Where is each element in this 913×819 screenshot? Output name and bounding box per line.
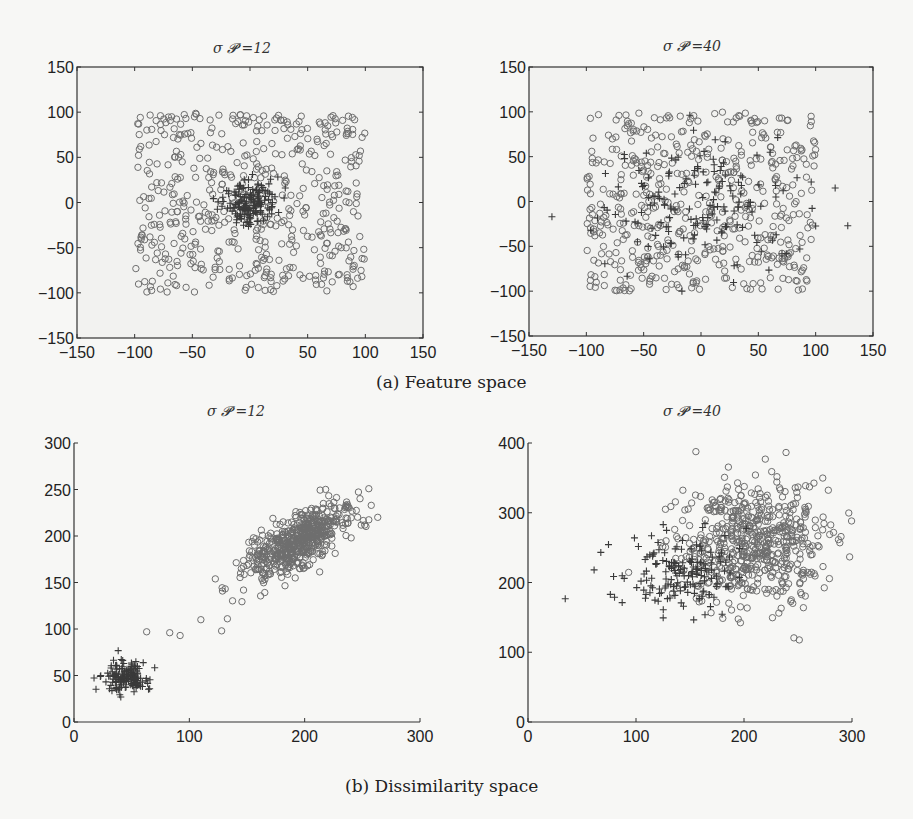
caption-feature-space: (a) Feature space	[376, 372, 527, 392]
x-tick-label: 50	[299, 344, 317, 361]
y-tick-label: 200	[498, 575, 525, 592]
y-tick-label: 100	[47, 104, 74, 121]
y-tick-label: 0	[62, 714, 71, 731]
x-tick-label: 150	[860, 342, 887, 359]
y-tick-label: 250	[44, 482, 71, 499]
y-tick-label: −50	[499, 238, 526, 255]
axis-ticks: 0100200300050100150200250300	[44, 435, 433, 745]
y-tick-label: 0	[65, 195, 74, 212]
points	[91, 486, 381, 701]
y-tick-label: −50	[47, 240, 74, 257]
y-tick-label: −150	[490, 328, 526, 345]
panel-dissimilarity-space-sigma-40: σ 𝓟 =40 01002003000100200300400	[460, 395, 913, 765]
x-tick-label: 200	[731, 728, 758, 745]
x-tick-label: 100	[623, 728, 650, 745]
y-tick-label: 0	[516, 714, 525, 731]
panel-dissimilarity-space-sigma-12: σ 𝓟 =12 0100200300050100150200250300	[0, 395, 460, 765]
x-tick-label: 300	[839, 728, 866, 745]
panel-feature-space-sigma-40: σ 𝓟 =40 −150−100−50050100150−150−100−500…	[460, 0, 913, 370]
x-tick-label: 100	[176, 728, 203, 745]
caption-dissimilarity-space: (b) Dissimilarity space	[345, 776, 538, 796]
x-tick-label: 300	[407, 728, 434, 745]
y-tick-label: 200	[44, 528, 71, 545]
y-tick-label: −100	[490, 283, 526, 300]
panel-feature-space-sigma-12: σ 𝓟 =12 −150−100−50050100150−150−100−500…	[0, 0, 460, 370]
y-tick-label: 50	[508, 149, 526, 166]
x-tick-label: 50	[749, 342, 767, 359]
y-tick-label: 150	[44, 575, 71, 592]
y-tick-label: 300	[44, 435, 71, 452]
x-tick-label: −100	[117, 344, 153, 361]
scatter-plot: 01002003000100200300400	[460, 395, 913, 765]
x-tick-label: 150	[410, 344, 437, 361]
y-tick-label: −100	[38, 285, 74, 302]
y-tick-label: 50	[56, 149, 74, 166]
y-tick-label: 100	[44, 621, 71, 638]
axis-ticks: 01002003000100200300400	[498, 435, 865, 745]
y-tick-label: 100	[499, 104, 526, 121]
x-tick-label: −100	[568, 342, 604, 359]
y-tick-label: −150	[38, 330, 74, 347]
scatter-plot: −150−100−50050100150−150−100−50050100150	[460, 0, 913, 370]
x-tick-label: 0	[246, 344, 255, 361]
scatter-plot: 0100200300050100150200250300	[0, 395, 460, 765]
x-tick-label: 100	[352, 344, 379, 361]
x-tick-label: −50	[630, 342, 657, 359]
x-tick-label: −50	[179, 344, 206, 361]
y-tick-label: 150	[499, 59, 526, 76]
y-tick-label: 0	[517, 194, 526, 211]
y-tick-label: 150	[47, 59, 74, 76]
y-tick-label: 50	[53, 668, 71, 685]
x-tick-label: 100	[802, 342, 829, 359]
x-tick-label: 0	[697, 342, 706, 359]
points	[562, 448, 855, 643]
x-tick-label: 200	[291, 728, 318, 745]
y-tick-label: 300	[498, 505, 525, 522]
y-tick-label: 400	[498, 435, 525, 452]
plot-area	[529, 67, 873, 336]
scatter-plot: −150−100−50050100150−150−100−50050100150	[0, 0, 460, 370]
y-tick-label: 100	[498, 644, 525, 661]
